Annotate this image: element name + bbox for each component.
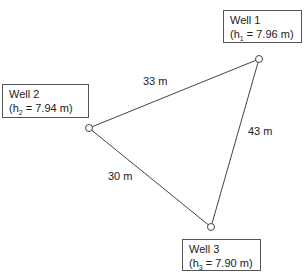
well-1-name: Well 1 [230, 13, 295, 27]
well-2-marker-icon [86, 125, 93, 132]
distance-label-well1-well3: 43 m [248, 125, 272, 137]
well-3-label-box: Well 3 (h3 = 7.90 m) [182, 239, 261, 271]
well-2-head: (h2 = 7.94 m) [9, 101, 82, 115]
edge-well2-well1 [89, 59, 259, 128]
distance-label-well2-well3: 30 m [108, 170, 132, 182]
well-1-head: (h1 = 7.96 m) [230, 27, 295, 41]
well-2-label-box: Well 2 (h2 = 7.94 m) [2, 84, 89, 118]
well-1-label-box: Well 1 (h1 = 7.96 m) [223, 10, 302, 43]
edge-well1-well3 [211, 59, 259, 227]
well-3-marker-icon [208, 224, 215, 231]
well-3-head: (h3 = 7.90 m) [189, 256, 254, 270]
well-3-name: Well 3 [189, 242, 254, 256]
well-1-marker-icon [256, 56, 263, 63]
well-2-name: Well 2 [9, 87, 82, 101]
distance-label-well2-well1: 33 m [143, 75, 167, 87]
